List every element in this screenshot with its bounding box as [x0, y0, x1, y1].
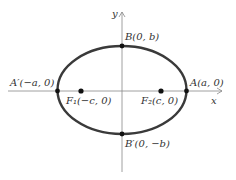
point-A: [184, 89, 189, 94]
x-axis-label: x: [211, 95, 217, 106]
point-F2: [158, 88, 163, 93]
point-F1: [78, 88, 83, 93]
label-A: A(a, 0): [189, 77, 224, 88]
point-B-prime: [120, 132, 125, 137]
label-B-prime: B′(0, −b): [124, 138, 170, 149]
label-B: B(0, b): [124, 31, 159, 42]
diagram-svg: y x B(0, b) B′(0, −b) A(a, 0) A′(−a, 0) …: [0, 0, 236, 180]
label-F1: F₁(−c, 0): [65, 95, 112, 106]
ellipse-diagram: y x B(0, b) B′(0, −b) A(a, 0) A′(−a, 0) …: [0, 0, 236, 180]
point-A-prime: [55, 89, 60, 94]
point-B: [120, 44, 125, 49]
y-axis-label: y: [111, 8, 118, 19]
label-A-prime: A′(−a, 0): [9, 77, 54, 88]
label-F2: F₂(c, 0): [140, 95, 178, 106]
